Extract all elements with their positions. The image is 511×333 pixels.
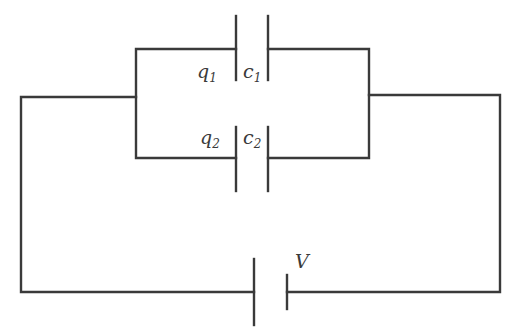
outer-left-wire: [21, 97, 254, 292]
capacitor-2-capacitance-label: c2: [243, 128, 261, 150]
capacitor-1-capacitance-label: c1: [243, 62, 261, 84]
circuit-diagram: q1 c1 q2 c2 V: [0, 0, 511, 333]
capacitor-2-charge-label: q2: [200, 128, 220, 150]
circuit-wires: [0, 0, 511, 333]
parallel-right-wire: [268, 49, 369, 158]
outer-right-wire: [287, 95, 500, 292]
parallel-left-wire: [136, 49, 236, 158]
capacitor-1-charge-label: q1: [197, 62, 217, 84]
battery-voltage-label: V: [295, 252, 309, 271]
